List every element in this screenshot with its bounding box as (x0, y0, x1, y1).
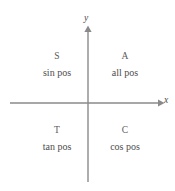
x-axis-label: x (164, 96, 168, 106)
cast-rule-diagram: y x S sin pos A all pos T tan pos C cos … (0, 0, 175, 191)
quadrant-letter: C (89, 126, 161, 136)
quadrant-label-all: A all pos (89, 52, 161, 78)
coordinate-axes (0, 0, 175, 191)
quadrant-description: sin pos (21, 68, 93, 78)
vertical-axis (84, 26, 91, 183)
quadrant-letter: S (21, 52, 93, 62)
quadrant-description: all pos (89, 68, 161, 78)
quadrant-letter: A (89, 52, 161, 62)
quadrant-label-sin: S sin pos (21, 52, 93, 78)
y-axis-arrowhead (84, 26, 91, 33)
quadrant-description: tan pos (21, 142, 93, 152)
quadrant-label-tan: T tan pos (21, 126, 93, 152)
quadrant-label-cos: C cos pos (89, 126, 161, 152)
horizontal-axis (10, 99, 165, 106)
quadrant-description: cos pos (89, 142, 161, 152)
quadrant-letter: T (21, 126, 93, 136)
y-axis-label: y (84, 14, 88, 24)
